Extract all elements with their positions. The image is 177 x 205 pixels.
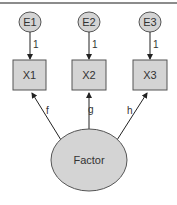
- observed-node-x1: X1: [13, 60, 46, 90]
- latent-node-factor: Factor: [51, 129, 127, 191]
- observed-node-x3: X3: [133, 60, 167, 90]
- arrow-factor-x3: [117, 93, 147, 140]
- e2-loading: 1: [92, 39, 98, 50]
- path-label-f: f: [46, 105, 49, 116]
- factor-label: Factor: [73, 154, 105, 166]
- x3-label: X3: [143, 69, 156, 81]
- e2-label: E2: [82, 16, 95, 28]
- observed-node-x2: X2: [72, 60, 106, 90]
- x2-label: X2: [82, 69, 95, 81]
- e3-label: E3: [143, 16, 156, 28]
- x1-label: X1: [23, 69, 36, 81]
- e3-loading: 1: [153, 39, 159, 50]
- error-node-e3: E3: [139, 12, 161, 32]
- path-diagram: E1 E2 E3 1 1 1 X1 X2 X3 f g h Factor: [0, 0, 177, 205]
- arrow-factor-x1: [32, 93, 61, 140]
- e1-label: E1: [23, 16, 36, 28]
- e1-loading: 1: [33, 39, 39, 50]
- path-label-h: h: [127, 105, 133, 116]
- path-label-g: g: [88, 104, 94, 115]
- error-node-e1: E1: [19, 12, 41, 32]
- error-node-e2: E2: [78, 12, 100, 32]
